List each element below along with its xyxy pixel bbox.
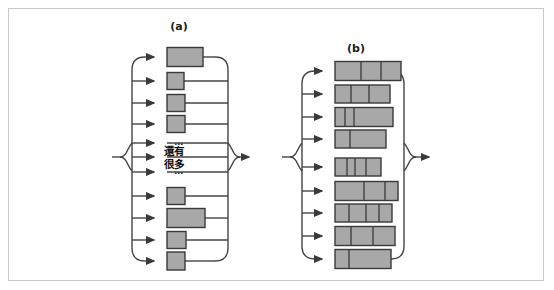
unit-box-b-7: [335, 227, 395, 246]
unit-box-body-a-2: [167, 95, 185, 112]
unit-box-b-5: [335, 182, 398, 201]
unit-box-body-b-2: [335, 108, 393, 127]
output-fan-lower-a: [228, 157, 240, 171]
unit-box-b-8: [335, 250, 391, 269]
unit-box-body-b-0: [335, 62, 401, 81]
left-bus-b: [302, 71, 315, 259]
unit-box-a-9: [167, 232, 186, 249]
input-fan-upper-b: [290, 143, 302, 157]
annotation-line-1: 還有: [164, 145, 185, 157]
unit-box-b-3: [335, 130, 386, 148]
unit-box-a-1: [167, 73, 184, 90]
figure-canvas: ……(a)還有很多 (b): [0, 0, 554, 290]
unit-box-body-b-5: [335, 182, 398, 201]
input-fan-lower-b: [290, 157, 302, 171]
output-fan-upper-b: [404, 143, 416, 157]
unit-box-body-b-1: [335, 85, 390, 103]
unit-box-a-7: [167, 188, 185, 205]
unit-box-body-b-3: [335, 130, 386, 148]
unit-box-body-b-6: [335, 204, 392, 222]
unit-box-body-a-0: [167, 48, 203, 67]
right-bus-a: [215, 57, 228, 261]
annotation-line-2: 很多: [163, 158, 185, 170]
unit-box-body-a-1: [167, 73, 184, 90]
output-fan-lower-b: [404, 157, 416, 171]
panel-label-b: (b): [347, 42, 365, 55]
panel-b: (b): [282, 42, 429, 269]
unit-box-b-6: [335, 204, 392, 222]
panel-a: ……(a)還有很多: [112, 20, 249, 270]
unit-box-body-a-10: [167, 252, 185, 270]
unit-box-b-4: [335, 158, 381, 176]
unit-box-body-b-4: [335, 158, 381, 176]
unit-box-b-1: [335, 85, 390, 103]
unit-box-body-b-8: [335, 250, 391, 269]
unit-box-body-a-9: [167, 232, 186, 249]
unit-box-body-a-7: [167, 188, 185, 205]
unit-box-a-3: [167, 116, 185, 133]
unit-box-b-0: [335, 62, 401, 81]
left-bus-a: [132, 57, 145, 261]
unit-box-a-0: [167, 48, 203, 67]
unit-box-body-a-3: [167, 116, 185, 133]
unit-box-a-2: [167, 95, 185, 112]
unit-box-a-10: [167, 252, 185, 270]
unit-box-body-b-7: [335, 227, 395, 246]
unit-box-b-2: [335, 108, 393, 127]
panel-label-a: (a): [170, 20, 187, 33]
output-fan-upper-a: [228, 143, 240, 157]
unit-box-body-a-8: [167, 209, 205, 228]
diagram-svg: ……(a)還有很多 (b): [0, 0, 554, 290]
unit-box-a-8: [167, 209, 205, 228]
input-fan-lower-a: [120, 157, 132, 171]
input-fan-upper-a: [120, 143, 132, 157]
